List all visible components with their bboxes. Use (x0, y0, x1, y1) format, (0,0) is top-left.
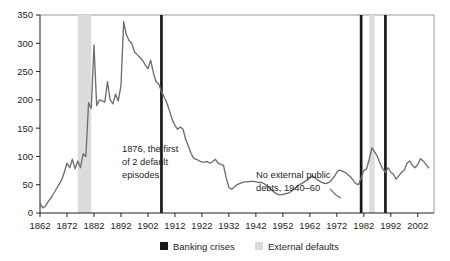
legend-label-external-defaults: External defaults (268, 241, 339, 252)
x-axis-tick-label: 1902 (137, 220, 158, 231)
annotation-line: debts, 1940–60 (256, 183, 320, 193)
annotation-leader-line (330, 189, 341, 198)
x-axis-tick-label: 1942 (245, 220, 266, 231)
annotation-line: 1876, the first (122, 144, 179, 154)
x-axis-tick-label: 1862 (29, 220, 50, 231)
x-axis-tick-label: 1932 (218, 220, 239, 231)
y-axis-tick-label: 150 (17, 123, 33, 134)
x-axis-ticks: 1862187218821892190219121922193219421952… (29, 213, 428, 231)
y-axis-tick-label: 100 (17, 151, 33, 162)
plot-frame (40, 15, 434, 213)
x-axis-tick-label: 1982 (353, 220, 374, 231)
legend-swatch-external-defaults (255, 242, 263, 250)
annotation-line: No external public (256, 170, 331, 180)
annotation-line: of 2 default (122, 157, 168, 167)
y-axis-ticks: 050100150200250300350 (17, 9, 40, 218)
x-axis-tick-label: 1962 (299, 220, 320, 231)
external-default-band (369, 15, 374, 213)
y-axis-tick-label: 250 (17, 66, 33, 77)
annotation-first-default: 1876, the first of 2 default episodes (122, 144, 179, 180)
x-axis-tick-label: 1992 (380, 220, 401, 231)
axis-lines (40, 15, 434, 213)
x-axis-tick-label: 1972 (326, 220, 347, 231)
annotation-no-external-debts: No external public debts, 1940–60 (256, 170, 341, 198)
x-axis-tick-label: 1952 (272, 220, 293, 231)
chart-container: 050100150200250300350 186218721882189219… (0, 0, 450, 261)
banking-crisis-band (160, 15, 163, 213)
external-default-band (78, 15, 91, 213)
banking-crisis-band (384, 15, 387, 213)
annotation-line: episodes (122, 170, 160, 180)
banking-crisis-band (360, 15, 363, 213)
legend-label-banking-crises: Banking crises (173, 241, 235, 252)
external-debt-line-chart: 050100150200250300350 186218721882189219… (0, 0, 450, 261)
y-axis-tick-label: 200 (17, 94, 33, 105)
x-axis-tick-label: 1892 (110, 220, 131, 231)
y-axis-tick-label: 350 (17, 9, 33, 20)
chart-legend: Banking crises External defaults (160, 241, 339, 252)
y-axis-tick-label: 50 (22, 179, 33, 190)
x-axis-tick-label: 1882 (83, 220, 104, 231)
legend-swatch-banking-crises (160, 242, 168, 250)
y-axis-tick-label: 300 (17, 38, 33, 49)
x-axis-tick-label: 1922 (191, 220, 212, 231)
x-axis-tick-label: 1872 (56, 220, 77, 231)
event-bands-layer (78, 15, 387, 213)
x-axis-tick-label: 2002 (407, 220, 428, 231)
y-axis-tick-label: 0 (28, 207, 33, 218)
x-axis-tick-label: 1912 (164, 220, 185, 231)
